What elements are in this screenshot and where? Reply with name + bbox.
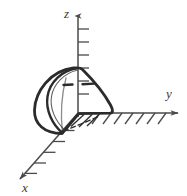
z-axis-label: z (63, 6, 69, 21)
x-axis-label: x (21, 180, 28, 195)
coordinate-system-diagram: x y (0, 0, 187, 196)
z-axis-group: z (63, 6, 89, 117)
solid-front-spine (61, 78, 66, 133)
math-figure: x y (0, 0, 187, 196)
y-axis-label: y (164, 86, 172, 101)
solid-region-group (34, 68, 112, 134)
x-axis-ticks (25, 131, 75, 174)
